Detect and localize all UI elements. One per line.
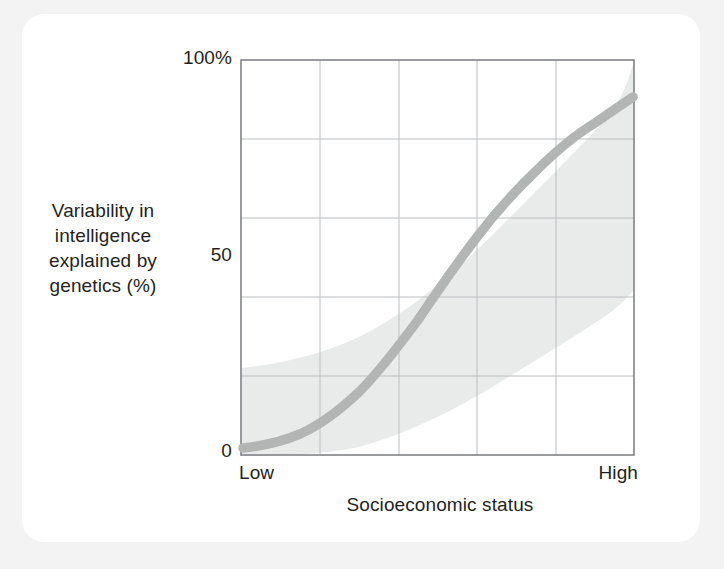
y-axis-title-line-3: explained by	[28, 248, 178, 273]
x-axis-tick-low: Low	[239, 462, 274, 484]
y-axis-tick-100: 100%	[178, 47, 232, 69]
y-axis-tick-0: 0	[198, 440, 232, 462]
page-background: Variability in intelligence explained by…	[0, 0, 724, 569]
x-axis-tick-high: High	[588, 462, 638, 484]
chart-figure: Variability in intelligence explained by…	[0, 0, 724, 569]
uncertainty-band	[241, 60, 634, 456]
y-axis-title-line-4: genetics (%)	[28, 273, 178, 298]
y-axis-title-line-2: intelligence	[28, 223, 178, 248]
y-axis-tick-50: 50	[190, 244, 232, 266]
x-axis-title: Socioeconomic status	[300, 492, 580, 517]
y-axis-title: Variability in intelligence explained by…	[28, 198, 178, 298]
y-axis-title-line-1: Variability in	[28, 198, 178, 223]
